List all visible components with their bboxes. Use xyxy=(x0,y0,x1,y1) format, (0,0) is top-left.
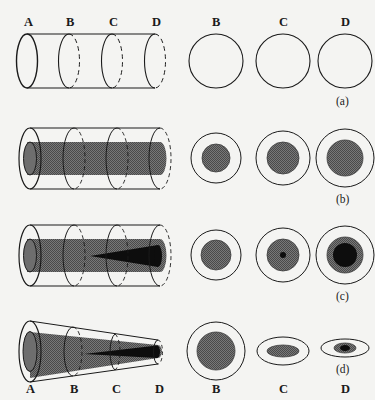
cylinder-c-black-wedge-cap xyxy=(154,245,162,267)
label-row-d-station-a: A xyxy=(26,383,35,396)
cross-section-b-c-core xyxy=(267,142,299,174)
label-row-a-station-a: A xyxy=(24,16,33,29)
cylinder-a-opening-a xyxy=(17,34,38,88)
label-row-a-station-d: D xyxy=(152,16,161,29)
label-row-d-station-d: D xyxy=(155,383,164,396)
label-cross-section-d-d: D xyxy=(341,383,350,396)
cylinder-c-core-near-cap xyxy=(24,239,37,272)
label-cross-section-d-b: B xyxy=(212,383,221,396)
cross-section-d-d-nucleus xyxy=(340,345,350,351)
cone-d-core-near-cap xyxy=(23,332,37,372)
label-cross-section-a-d: D xyxy=(341,16,350,29)
cylinder-b-core-slab xyxy=(27,142,160,175)
cross-section-c-b-core xyxy=(201,240,231,270)
caption-panel-b: (b) xyxy=(336,194,349,206)
cylinder-b-core-near-cap xyxy=(24,142,37,175)
caption-panel-d: (d) xyxy=(336,364,349,376)
caption-panel-c: (c) xyxy=(336,291,349,303)
label-cross-section-a-c: C xyxy=(279,16,288,29)
label-row-d-station-b: B xyxy=(70,383,79,396)
cylinder-b-core-far-cap xyxy=(154,142,167,175)
cross-section-b-b-core xyxy=(202,144,230,172)
label-row-a-station-c: C xyxy=(109,16,118,29)
scientific-figure xyxy=(0,0,375,400)
cross-section-d-b-core xyxy=(197,332,235,370)
label-cross-section-d-c: C xyxy=(279,383,288,396)
label-row-d-station-c: C xyxy=(112,383,121,396)
cross-section-c-c-nucleus xyxy=(280,252,286,258)
label-cross-section-a-b: B xyxy=(212,16,221,29)
cross-section-b-d-core xyxy=(327,140,363,176)
cone-d-black-wedge-cap xyxy=(154,346,160,358)
label-row-a-station-b: B xyxy=(66,16,75,29)
cross-section-c-d-nucleus xyxy=(333,243,357,267)
cross-section-d-c-core xyxy=(267,345,299,357)
caption-panel-a: (a) xyxy=(336,96,349,108)
